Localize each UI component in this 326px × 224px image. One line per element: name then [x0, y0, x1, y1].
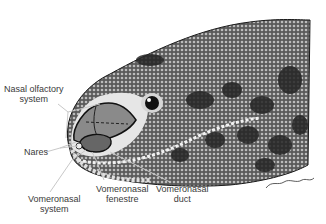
label-vomeronasal-duct: Vomeronasal duct	[156, 184, 209, 204]
vomeronasal-organ	[80, 135, 111, 152]
label-nares: Nares	[24, 147, 48, 157]
label-nasal-olfactory-system: Nasal olfactory system	[4, 84, 64, 104]
label-vomeronasal-system: Vomeronasal system	[28, 194, 81, 214]
eye-icon	[141, 93, 163, 113]
label-vomeronasal-fenestre: Vomeronasal fenestre	[96, 184, 149, 204]
artist-signature	[266, 178, 314, 188]
figure-canvas: Nasal olfactory system Nares Vomeronasal…	[0, 0, 326, 224]
